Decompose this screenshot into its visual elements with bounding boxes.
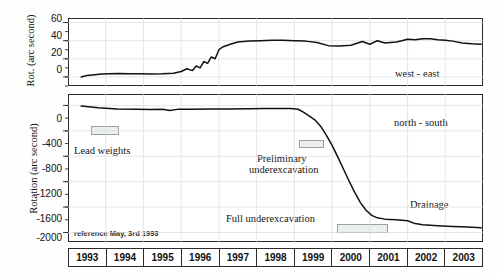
figure-root: Rot. (arc second) 60 40 20 0 west - east…: [0, 0, 499, 275]
data-curve-top: [81, 39, 481, 77]
data-curve-bottom: [81, 106, 481, 228]
chart-vector-layer: [0, 0, 499, 275]
